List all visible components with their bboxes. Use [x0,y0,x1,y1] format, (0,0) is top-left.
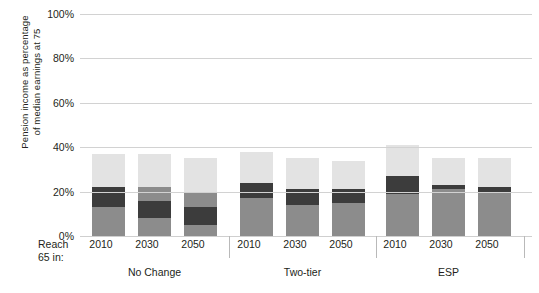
bars-layer [80,14,532,236]
bar-segment-2 [184,192,217,208]
bar-segment-0 [478,192,511,236]
category-label-1: 2030 [123,238,171,250]
bar-segment-0 [240,198,273,236]
bar-segment-0 [92,207,125,236]
gridline-20 [80,192,532,193]
group-label-no-change: No Change [128,266,181,278]
bar-segment-3 [184,158,217,191]
bar-8[interactable] [478,158,511,236]
bar-2[interactable] [184,158,217,236]
bar-segment-0 [332,203,365,236]
category-label-4: 2030 [271,238,319,250]
bar-0[interactable] [92,154,125,236]
bar-segment-3 [432,158,465,185]
bar-segment-2 [138,187,171,200]
gridline-0 [80,236,532,237]
bar-1[interactable] [138,154,171,236]
bar-segment-0 [138,218,171,236]
bar-segment-0 [386,194,419,236]
reach-axis-label: Reach 65 in: [38,238,80,264]
bar-5[interactable] [332,161,365,236]
category-label-5: 2050 [317,238,365,250]
y-tick-label-80: 80% [53,52,74,64]
category-label-7: 2030 [417,238,465,250]
group-separator-0 [229,236,230,258]
bar-segment-1 [184,207,217,225]
gridline-40 [80,147,532,148]
y-axis-tick-labels: 0%20%40%60%80%100% [0,0,80,236]
bar-segment-1 [92,187,125,207]
bar-segment-3 [240,152,273,183]
bar-segment-0 [286,205,319,236]
group-label-two-tier: Two-tier [284,266,321,278]
chart-container: Pension income as percentage of median e… [0,0,539,293]
category-label-3: 2010 [225,238,273,250]
bar-3[interactable] [240,152,273,236]
bar-segment-0 [432,189,465,236]
group-label-esp: ESP [438,266,459,278]
bar-segment-3 [332,161,365,190]
y-tick-label-20: 20% [53,186,74,198]
bar-segment-1 [138,201,171,219]
group-separator-1 [376,236,377,258]
bar-7[interactable] [432,158,465,236]
bar-6[interactable] [386,145,419,236]
bar-segment-3 [138,154,171,187]
gridline-80 [80,58,532,59]
bar-segment-1 [240,183,273,199]
y-tick-label-40: 40% [53,141,74,153]
bar-segment-3 [286,158,319,189]
y-tick-label-100: 100% [47,8,74,20]
category-label-0: 2010 [77,238,125,250]
gridline-100 [80,14,532,15]
group-axis: No ChangeTwo-tierESP [80,266,532,282]
category-label-6: 2010 [371,238,419,250]
gridline-60 [80,103,532,104]
plot-area [80,14,532,236]
bar-segment-3 [92,154,125,187]
y-tick-label-60: 60% [53,97,74,109]
bar-4[interactable] [286,158,319,236]
category-axis: 201020302050201020302050201020302050 [80,238,532,258]
group-separator-2 [524,236,525,258]
category-label-8: 2050 [463,238,511,250]
category-label-2: 2050 [169,238,217,250]
bar-segment-3 [478,158,511,187]
bar-segment-0 [184,225,217,236]
bar-segment-3 [386,145,419,176]
